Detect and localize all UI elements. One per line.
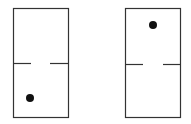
domino-right (126, 9, 181, 118)
domino-left (14, 9, 69, 118)
domino-right-top-pip (149, 21, 157, 29)
dominoes-diagram (0, 0, 191, 124)
domino-left-bottom-pip (26, 94, 34, 102)
